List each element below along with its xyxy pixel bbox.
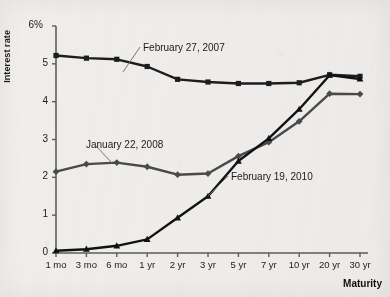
x-axis-title: Maturity: [343, 278, 382, 289]
x-tick-label: 3 mo: [76, 259, 97, 270]
series-february-27-2007: [53, 53, 362, 86]
annotation-label: February 27, 2007: [143, 42, 225, 53]
y-tick-label: 2: [26, 170, 48, 181]
annotation-label: January 22, 2008: [86, 139, 163, 150]
x-tick-label: 3 yr: [200, 259, 216, 270]
x-tick-label: 7 yr: [261, 259, 277, 270]
y-tick-label: 0: [26, 246, 48, 257]
y-tick-label: 5: [26, 57, 48, 68]
x-tick-label: 1 yr: [139, 259, 155, 270]
x-tick-label: 10 yr: [289, 259, 310, 270]
x-tick-label: 6 mo: [106, 259, 127, 270]
x-tick-label: 20 yr: [319, 259, 340, 270]
x-tick-label: 30 yr: [349, 259, 370, 270]
yield-curve-chart: Interest rate 0123456% 1 mo3 mo6 mo1 yr2…: [0, 0, 390, 297]
x-tick-label: 1 mo: [45, 259, 66, 270]
y-tick-label: 3: [26, 133, 48, 144]
series-january-22-2008: [53, 90, 364, 178]
y-tick-label: 6%: [17, 19, 43, 30]
x-tick-label: 5 yr: [230, 259, 246, 270]
x-tick-label: 2 yr: [170, 259, 186, 270]
annotation-label: February 19, 2010: [231, 171, 313, 182]
y-tick-label: 4: [26, 95, 48, 106]
y-tick-label: 1: [26, 208, 48, 219]
